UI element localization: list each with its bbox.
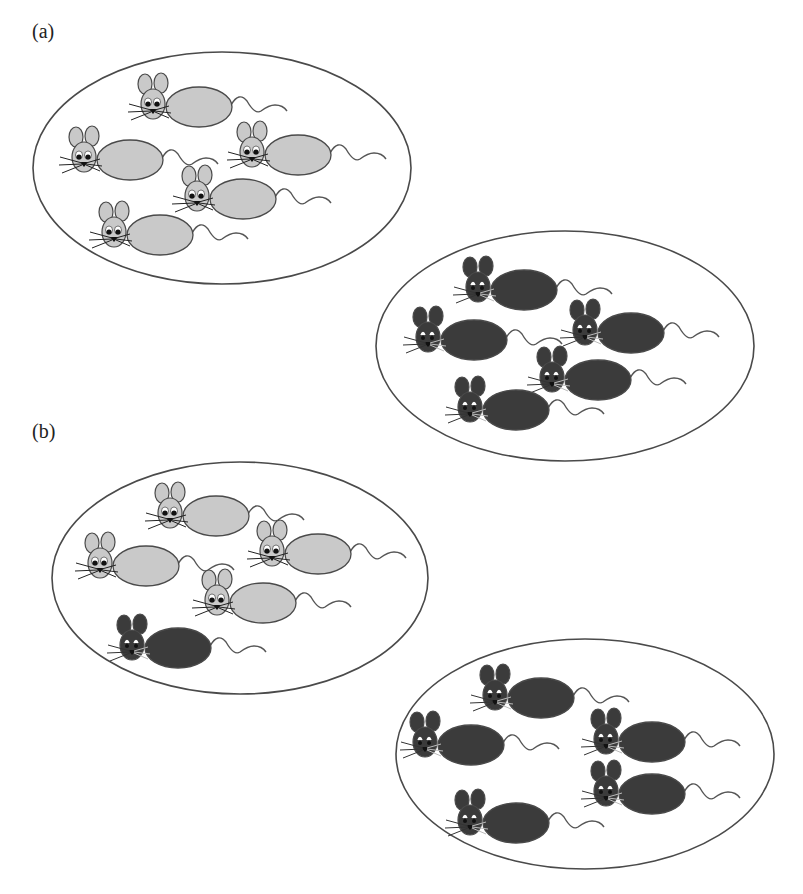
body-icon [285, 534, 351, 574]
body-icon [127, 215, 193, 255]
body-icon [183, 496, 249, 536]
mouse-population-diagram [0, 0, 803, 894]
population-1 [52, 462, 428, 694]
body-icon [491, 270, 557, 310]
body-icon [619, 722, 685, 762]
body-icon [113, 546, 179, 586]
population-2 [396, 639, 774, 869]
population-1 [33, 52, 411, 284]
body-icon [145, 628, 211, 668]
body-icon [210, 179, 276, 219]
population-2 [376, 231, 754, 461]
panel-a [33, 52, 754, 461]
body-icon [438, 725, 504, 765]
body-icon [619, 774, 685, 814]
body-icon [483, 803, 549, 843]
body-icon [483, 390, 549, 430]
body-icon [441, 320, 507, 360]
body-icon [508, 678, 574, 718]
body-icon [230, 583, 296, 623]
body-icon [166, 87, 232, 127]
body-icon [565, 360, 631, 400]
body-icon [97, 140, 163, 180]
body-icon [598, 313, 664, 353]
body-icon [265, 135, 331, 175]
population-boundary [52, 462, 428, 694]
panel-b [52, 462, 774, 869]
